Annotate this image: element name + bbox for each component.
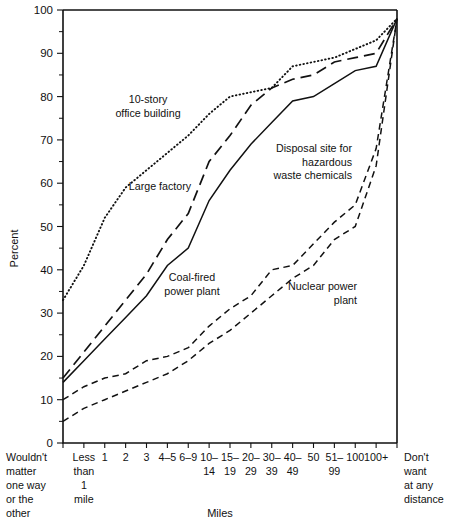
y-tick-label: 10 [40, 394, 53, 406]
x-tick-label: mile [74, 493, 94, 505]
y-tick-label: 60 [40, 177, 53, 189]
x-tick-label: distance [404, 493, 444, 505]
series-annotation-2: Large factory [129, 180, 192, 192]
x-tick-label: 40– [284, 451, 302, 463]
series-line-3 [63, 19, 397, 383]
series-annotation-5: Nuclear power [288, 280, 357, 292]
y-tick-label: 90 [40, 47, 53, 59]
x-tick-label: 100+ [364, 451, 388, 463]
y-ticks-group: 0102030405060708090100 [34, 4, 63, 449]
x-tick-label: one way [6, 479, 46, 491]
x-tick-label: 19 [224, 465, 236, 477]
y-tick-label: 20 [40, 350, 53, 362]
y-tick-label: 100 [34, 4, 53, 16]
x-tick-label: 20– [242, 451, 260, 463]
series-line-2 [63, 19, 397, 378]
series-annotation-1: office building [115, 107, 180, 119]
x-tick-label: 3 [144, 451, 150, 463]
y-tick-label: 0 [47, 437, 53, 449]
x-tick-label: 1 [102, 451, 108, 463]
x-tick-label: 39 [266, 465, 278, 477]
x-tick-label: 99 [328, 465, 340, 477]
series-group [63, 19, 397, 422]
x-tick-label: want [403, 465, 427, 477]
x-tick-label: than [73, 465, 94, 477]
x-tick-label: matter [6, 465, 37, 477]
x-tick-label: or the [6, 493, 33, 505]
x-tick-label: 30– [263, 451, 281, 463]
x-tick-label: Don't [404, 451, 429, 463]
y-tick-label: 40 [40, 264, 53, 276]
series-annotation-4: waste chemicals [273, 169, 352, 181]
x-tick-label: other [6, 507, 31, 519]
line-chart: 0102030405060708090100Wouldn'tmatterone … [0, 0, 454, 525]
series-annotation-1: 10-story [129, 93, 168, 105]
series-annotation-4: hazardous [302, 156, 352, 168]
x-tick-label: 6–9 [179, 451, 197, 463]
x-tick-label: at any [404, 479, 434, 491]
x-tick-label: 2 [123, 451, 129, 463]
y-tick-label: 30 [40, 307, 53, 319]
series-line-5 [63, 19, 397, 422]
x-tick-label: 29 [245, 465, 257, 477]
x-tick-label: 4–5 [158, 451, 176, 463]
x-tick-label: 14 [203, 465, 215, 477]
x-tick-label: 10– [200, 451, 218, 463]
x-tick-label: 1 [81, 479, 87, 491]
x-tick-label: 50 [308, 451, 320, 463]
y-axis-title: Percent [8, 230, 20, 268]
x-axis-title: Miles [207, 507, 233, 519]
x-tick-label: 51– [325, 451, 343, 463]
y-tick-label: 50 [40, 221, 53, 233]
series-annotation-3: Coal-fired [169, 271, 215, 283]
series-annotation-3: power plant [164, 285, 219, 297]
y-tick-label: 80 [40, 91, 53, 103]
chart-container: 0102030405060708090100Wouldn'tmatterone … [0, 0, 454, 525]
series-annotation-5: plant [334, 294, 357, 306]
x-tick-label: 49 [287, 465, 299, 477]
x-tick-label: 15– [221, 451, 239, 463]
series-annotation-4: Disposal site for [276, 142, 352, 154]
y-tick-label: 70 [40, 134, 53, 146]
x-tick-label: Wouldn't [6, 451, 47, 463]
x-tick-label: Less [73, 451, 96, 463]
x-tick-label: 100 [346, 451, 364, 463]
